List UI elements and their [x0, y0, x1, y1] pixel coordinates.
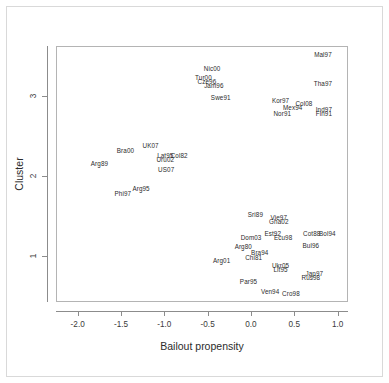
- x-axis-tick-label: -1.0: [157, 320, 171, 329]
- x-axis-tick-label: 0.0: [245, 320, 256, 329]
- x-axis-tick: [208, 311, 209, 316]
- x-axis-tick-label: -1.5: [114, 320, 128, 329]
- data-point-label: Jam96: [204, 81, 223, 88]
- y-axis-tick-label: 2: [29, 173, 38, 178]
- x-axis-tick-label: 0.5: [289, 320, 300, 329]
- data-point-label: Bol94: [319, 229, 336, 236]
- data-point-label: Bra00: [117, 147, 134, 154]
- x-axis-tick-label: -0.5: [201, 320, 215, 329]
- data-point-label: Swe91: [211, 93, 231, 100]
- x-axis-line: [56, 311, 348, 312]
- plot-panel: Mal97Nic00Tur00Cze96Jam96Tha97Swe91Kor97…: [56, 46, 348, 302]
- x-axis-tick: [338, 311, 339, 316]
- x-axis-tick: [294, 311, 295, 316]
- data-point-label: Ven94: [261, 288, 279, 295]
- data-point-label: US07: [158, 165, 174, 172]
- y-axis-tick: [42, 176, 47, 177]
- data-point-label: Cot88: [303, 229, 320, 236]
- x-axis-tick-label: 1.0: [332, 320, 343, 329]
- y-axis-tick: [42, 256, 47, 257]
- data-point-label: Uru02: [156, 156, 174, 163]
- data-point-label: Kor97: [272, 96, 289, 103]
- scatter-plot-figure: Mal97Nic00Tur00Cze96Jam96Tha97Swe91Kor97…: [0, 0, 389, 383]
- data-point-label: Nor91: [273, 110, 291, 117]
- data-point-label: Bul96: [303, 241, 320, 248]
- y-axis-title: Cluster: [13, 157, 25, 190]
- y-axis-tick-label: 3: [29, 93, 38, 98]
- data-point-label: Cro98: [282, 289, 300, 296]
- x-axis-tick: [251, 311, 252, 316]
- x-axis-tick: [78, 311, 79, 316]
- data-point-label: Mal97: [314, 51, 332, 58]
- data-point-label: Chi81: [245, 253, 262, 260]
- y-axis-line: [47, 46, 48, 302]
- y-axis-tick: [42, 96, 47, 97]
- data-point-label: Phi97: [115, 189, 132, 196]
- data-point-label: Lit95: [273, 266, 287, 273]
- data-point-label: Fin91: [316, 110, 332, 117]
- data-point-label: Ecu98: [274, 234, 292, 241]
- data-point-label: UK07: [143, 141, 159, 148]
- data-point-label: Arg95: [132, 184, 149, 191]
- x-axis-tick: [164, 311, 165, 316]
- data-point-label: Gha02: [269, 218, 288, 225]
- data-point-label: Arg89: [91, 160, 108, 167]
- y-axis-tick-label: 1: [29, 253, 38, 258]
- x-axis-tick: [121, 311, 122, 316]
- data-point-label: Nic00: [204, 64, 221, 71]
- data-point-labels: Mal97Nic00Tur00Cze96Jam96Tha97Swe91Kor97…: [57, 47, 347, 301]
- data-point-label: Rus98: [302, 273, 321, 280]
- data-point-label: Dom03: [241, 234, 262, 241]
- data-point-label: Arg01: [213, 256, 230, 263]
- data-point-label: Tha97: [314, 80, 332, 87]
- x-axis-title: Bailout propensity: [160, 340, 243, 352]
- data-point-label: Arg80: [235, 243, 252, 250]
- data-point-label: Sri89: [248, 211, 263, 218]
- x-axis-tick-label: -2.0: [71, 320, 85, 329]
- data-point-label: Par95: [240, 277, 257, 284]
